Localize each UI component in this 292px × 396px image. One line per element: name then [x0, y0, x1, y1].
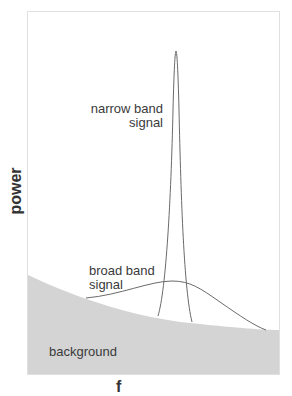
narrow-band-label-line2: signal	[88, 116, 163, 130]
background-label: background	[49, 345, 117, 359]
narrow-band-label: narrow band signal	[88, 102, 163, 130]
narrow-band-label-line1: narrow band	[88, 102, 163, 116]
y-axis-label: power	[7, 161, 25, 221]
broad-band-label-line2: signal	[89, 278, 155, 292]
broad-band-label: broad band signal	[89, 264, 155, 292]
broad-band-label-line1: broad band	[89, 264, 155, 278]
x-axis-label: f	[116, 378, 121, 396]
